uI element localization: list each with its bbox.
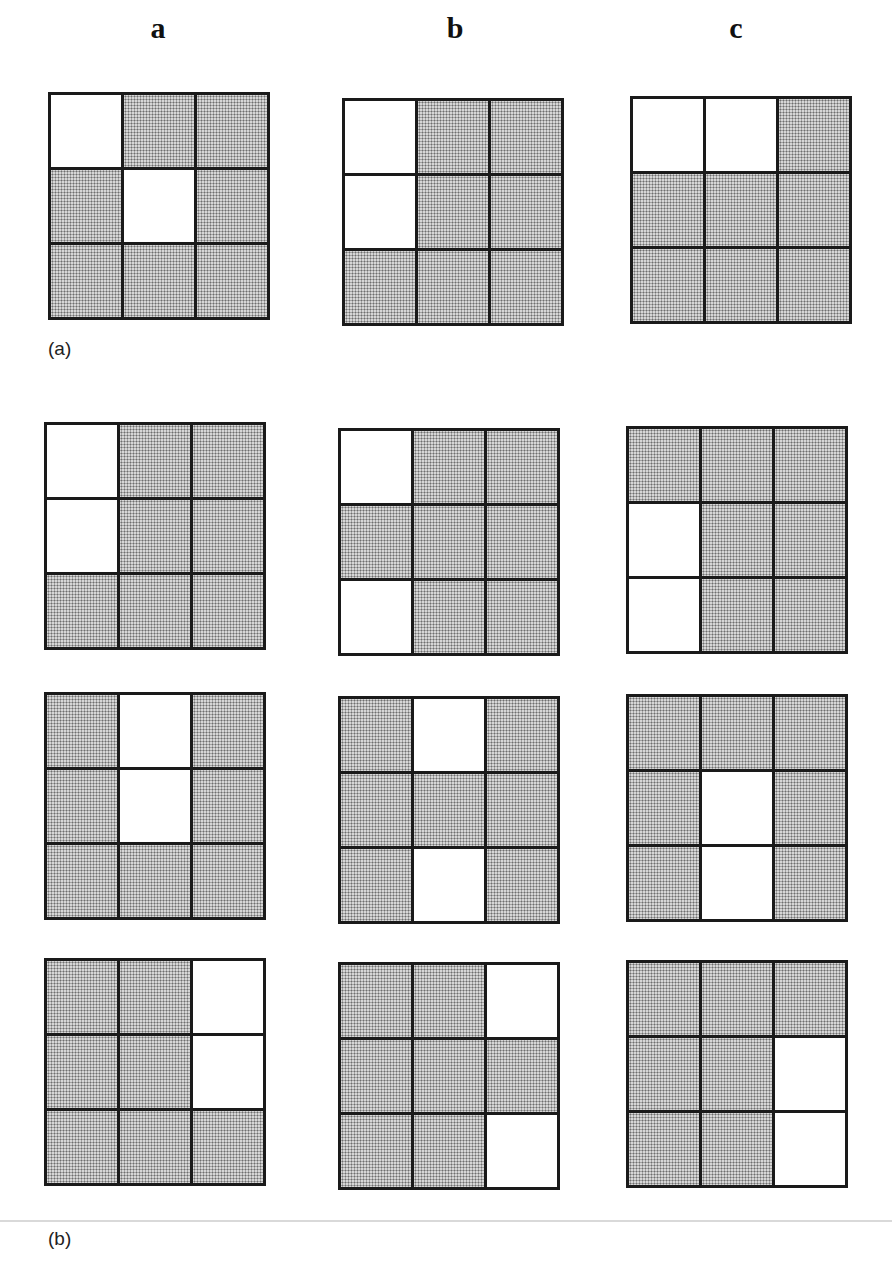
shaded-cell-r0c1 xyxy=(702,963,772,1035)
shaded-cell-r1c2 xyxy=(487,774,557,846)
open-cell-r0c1 xyxy=(414,699,484,771)
shaded-cell-r1c1 xyxy=(702,1038,772,1110)
shaded-cell-r1c1 xyxy=(706,174,776,246)
grid-b-row2-col-b xyxy=(338,696,560,924)
open-cell-r2c1 xyxy=(702,847,772,919)
open-cell-r0c0 xyxy=(341,431,411,503)
open-cell-r2c2 xyxy=(775,1113,845,1185)
open-cell-r2c2 xyxy=(487,1115,557,1187)
shaded-cell-r2c2 xyxy=(491,251,561,323)
shaded-cell-r2c2 xyxy=(487,581,557,653)
column-label-a: a xyxy=(138,8,178,48)
shaded-cell-r0c0 xyxy=(629,963,699,1035)
shaded-cell-r1c2 xyxy=(193,500,263,572)
grid-b-row1-col-c xyxy=(626,426,848,654)
shaded-cell-r0c1 xyxy=(120,961,190,1033)
grid-b-row3-col-c xyxy=(626,960,848,1188)
shaded-cell-r1c0 xyxy=(47,770,117,842)
shaded-cell-r0c1 xyxy=(414,965,484,1037)
open-cell-r0c0 xyxy=(47,425,117,497)
shaded-cell-r2c2 xyxy=(775,847,845,919)
open-cell-r1c1 xyxy=(124,170,194,242)
shaded-cell-r2c1 xyxy=(120,845,190,917)
shaded-cell-r0c2 xyxy=(775,963,845,1035)
shaded-cell-r2c0 xyxy=(47,575,117,647)
shaded-cell-r1c0 xyxy=(633,174,703,246)
shaded-cell-r1c1 xyxy=(120,500,190,572)
open-cell-r0c0 xyxy=(51,95,121,167)
shaded-cell-r2c0 xyxy=(47,845,117,917)
shaded-cell-r0c2 xyxy=(197,95,267,167)
shaded-cell-r2c1 xyxy=(414,581,484,653)
shaded-cell-r2c2 xyxy=(193,1111,263,1183)
column-label-b: b xyxy=(435,8,475,48)
shaded-cell-r0c0 xyxy=(341,965,411,1037)
grid-b-row1-col-b xyxy=(338,428,560,656)
shaded-cell-r1c0 xyxy=(341,774,411,846)
shaded-cell-r2c0 xyxy=(47,1111,117,1183)
shaded-cell-r0c2 xyxy=(487,699,557,771)
shaded-cell-r1c2 xyxy=(487,1040,557,1112)
grid-b-row2-col-c xyxy=(626,694,848,922)
shaded-cell-r0c1 xyxy=(418,101,488,173)
open-cell-r0c1 xyxy=(706,99,776,171)
panel-label-a: (a) xyxy=(48,338,71,360)
shaded-cell-r1c0 xyxy=(47,1036,117,1108)
shaded-cell-r1c1 xyxy=(120,1036,190,1108)
shaded-cell-r0c0 xyxy=(629,697,699,769)
grid-b-row3-col-a xyxy=(44,958,266,1186)
shaded-cell-r1c2 xyxy=(775,504,845,576)
grid-a-row1-col-a xyxy=(48,92,270,320)
shaded-cell-r0c2 xyxy=(491,101,561,173)
shaded-cell-r1c1 xyxy=(418,176,488,248)
panel-label-b: (b) xyxy=(48,1228,71,1250)
grid-b-row3-col-b xyxy=(338,962,560,1190)
separator-line xyxy=(0,1220,892,1222)
shaded-cell-r0c2 xyxy=(779,99,849,171)
shaded-cell-r0c0 xyxy=(47,695,117,767)
shaded-cell-r2c2 xyxy=(487,849,557,921)
shaded-cell-r0c1 xyxy=(120,425,190,497)
shaded-cell-r0c2 xyxy=(775,429,845,501)
open-cell-r1c1 xyxy=(702,772,772,844)
shaded-cell-r1c2 xyxy=(491,176,561,248)
shaded-cell-r0c2 xyxy=(193,425,263,497)
grid-b-row2-col-a xyxy=(44,692,266,920)
shaded-cell-r1c0 xyxy=(341,1040,411,1112)
shaded-cell-r0c0 xyxy=(341,699,411,771)
shaded-cell-r2c2 xyxy=(193,575,263,647)
open-cell-r1c0 xyxy=(629,504,699,576)
shaded-cell-r0c1 xyxy=(124,95,194,167)
shaded-cell-r2c1 xyxy=(702,579,772,651)
grid-a-row1-col-b xyxy=(342,98,564,326)
shaded-cell-r2c0 xyxy=(51,245,121,317)
shaded-cell-r2c1 xyxy=(124,245,194,317)
shaded-cell-r0c2 xyxy=(193,695,263,767)
shaded-cell-r2c0 xyxy=(341,849,411,921)
shaded-cell-r1c1 xyxy=(702,504,772,576)
shaded-cell-r0c1 xyxy=(702,697,772,769)
shaded-cell-r2c0 xyxy=(345,251,415,323)
open-cell-r1c0 xyxy=(345,176,415,248)
shaded-cell-r0c2 xyxy=(487,431,557,503)
shaded-cell-r2c2 xyxy=(779,249,849,321)
shaded-cell-r1c0 xyxy=(341,506,411,578)
shaded-cell-r0c1 xyxy=(414,431,484,503)
shaded-cell-r1c1 xyxy=(414,1040,484,1112)
shaded-cell-r2c2 xyxy=(197,245,267,317)
open-cell-r0c1 xyxy=(120,695,190,767)
shaded-cell-r1c2 xyxy=(197,170,267,242)
shaded-cell-r0c2 xyxy=(775,697,845,769)
shaded-cell-r1c0 xyxy=(51,170,121,242)
shaded-cell-r1c0 xyxy=(629,772,699,844)
grid-b-row1-col-a xyxy=(44,422,266,650)
open-cell-r2c0 xyxy=(629,579,699,651)
open-cell-r0c2 xyxy=(487,965,557,1037)
shaded-cell-r0c0 xyxy=(629,429,699,501)
shaded-cell-r2c1 xyxy=(120,575,190,647)
column-label-c: c xyxy=(716,8,756,48)
shaded-cell-r2c1 xyxy=(120,1111,190,1183)
shaded-cell-r1c1 xyxy=(414,506,484,578)
open-cell-r1c1 xyxy=(120,770,190,842)
open-cell-r1c0 xyxy=(47,500,117,572)
